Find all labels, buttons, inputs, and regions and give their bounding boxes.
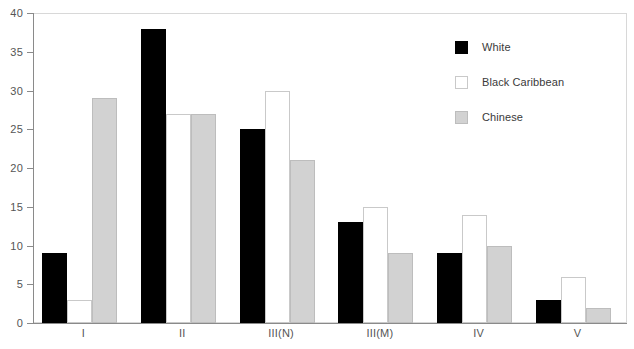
bar-chinese[interactable] — [290, 160, 315, 323]
legend-label-black-caribbean: Black Caribbean — [482, 76, 564, 88]
bar-black-caribbean[interactable] — [265, 91, 290, 324]
y-tick-mark — [27, 52, 34, 53]
y-tick-label: 10 — [0, 241, 23, 252]
y-tick-mark — [27, 168, 34, 169]
y-tick-mark — [27, 207, 34, 208]
y-tick-mark — [27, 91, 34, 92]
chart-legend: White Black Caribbean Chinese — [455, 40, 620, 145]
y-tick-label: 35 — [0, 47, 23, 58]
bar-white[interactable] — [536, 300, 561, 323]
legend-label-white: White — [482, 41, 511, 53]
bar-white[interactable] — [42, 253, 67, 323]
bar-white[interactable] — [240, 129, 265, 323]
bar-group — [338, 13, 413, 323]
y-tick-mark — [27, 323, 34, 324]
bar-chinese[interactable] — [92, 98, 117, 323]
bar-white[interactable] — [141, 29, 166, 324]
y-tick-label: 30 — [0, 86, 23, 97]
legend-item-black-caribbean[interactable]: Black Caribbean — [455, 75, 620, 89]
x-tick-label: V — [528, 328, 627, 339]
legend-item-chinese[interactable]: Chinese — [455, 110, 620, 124]
legend-swatch-black-caribbean-icon — [455, 76, 468, 89]
x-axis-line — [33, 323, 627, 324]
y-tick-mark — [27, 129, 34, 130]
x-tick-label: IV — [429, 328, 528, 339]
x-tick-label: I — [34, 328, 133, 339]
y-tick-label: 40 — [0, 8, 23, 19]
y-tick-label: 20 — [0, 163, 23, 174]
y-tick-mark — [27, 284, 34, 285]
x-tick-label: II — [133, 328, 232, 339]
bar-group — [141, 13, 216, 323]
bar-black-caribbean[interactable] — [462, 215, 487, 324]
bar-black-caribbean[interactable] — [67, 300, 92, 323]
y-tick-mark — [27, 13, 34, 14]
bar-black-caribbean[interactable] — [363, 207, 388, 323]
bar-group — [42, 13, 117, 323]
legend-item-white[interactable]: White — [455, 40, 620, 54]
bar-white[interactable] — [437, 253, 462, 323]
bar-white[interactable] — [338, 222, 363, 323]
bar-chinese[interactable] — [388, 253, 413, 323]
x-tick-label: III(N) — [232, 328, 331, 339]
bar-group — [240, 13, 315, 323]
bar-chinese[interactable] — [487, 246, 512, 324]
legend-swatch-white-icon — [455, 41, 468, 54]
legend-label-chinese: Chinese — [482, 111, 523, 123]
y-tick-label: 15 — [0, 202, 23, 213]
y-tick-mark — [27, 246, 34, 247]
bar-black-caribbean[interactable] — [166, 114, 191, 323]
bar-chinese[interactable] — [586, 308, 611, 324]
bar-black-caribbean[interactable] — [561, 277, 586, 324]
bar-chart: 0510152025303540 IIIIII(N)III(M)IVV Whit… — [0, 0, 634, 349]
y-tick-label: 0 — [0, 318, 23, 329]
bar-chinese[interactable] — [191, 114, 216, 323]
y-tick-label: 25 — [0, 124, 23, 135]
legend-swatch-chinese-icon — [455, 111, 468, 124]
x-tick-label: III(M) — [331, 328, 430, 339]
y-tick-label: 5 — [0, 279, 23, 290]
